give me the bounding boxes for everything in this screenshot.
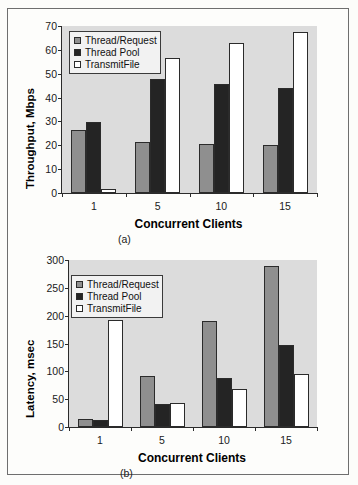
x-axis-tick-mark — [317, 427, 318, 431]
x-axis-tick-mark — [193, 427, 194, 431]
x-axis-tick-label: 5 — [155, 200, 161, 212]
chart-a-x-axis-label: Concurrent Clients — [61, 217, 316, 231]
y-axis-tick-mark — [65, 316, 69, 317]
y-axis-tick-mark — [65, 399, 69, 400]
bar — [214, 84, 229, 193]
legend-swatch-thread-request-icon — [76, 281, 83, 288]
legend-label: Thread Pool — [87, 291, 141, 302]
y-axis-tick-mark — [65, 260, 69, 261]
legend-item: TransmitFile — [76, 303, 157, 314]
bar — [229, 43, 244, 193]
bar — [263, 145, 278, 193]
x-axis-tick-label: 1 — [91, 200, 97, 212]
legend-label: Thread Pool — [85, 47, 139, 58]
bar — [101, 189, 116, 193]
legend-item: Thread Pool — [76, 291, 157, 302]
figure-frame: Throughput, Mbps 010203040506070151015 C… — [7, 8, 349, 475]
bar — [264, 266, 279, 427]
x-axis-tick-label: 10 — [216, 200, 228, 212]
x-axis-tick-mark — [317, 193, 318, 197]
x-axis-tick-label: 1 — [97, 434, 103, 446]
legend-item: Thread Pool — [74, 47, 155, 58]
bar — [278, 88, 293, 193]
bar — [150, 79, 165, 194]
x-axis-tick-mark — [255, 427, 256, 431]
x-axis-tick-mark — [253, 193, 254, 197]
chart-a-caption: (a) — [118, 233, 131, 245]
bar — [217, 378, 232, 427]
y-axis-tick-mark — [58, 74, 62, 75]
y-axis-tick-mark — [58, 121, 62, 122]
bar — [279, 345, 294, 427]
chart-b-legend: Thread/Request Thread Pool TransmitFile — [71, 275, 163, 318]
bar — [108, 320, 123, 427]
chart-b-caption: (b) — [120, 467, 133, 479]
bar — [140, 376, 155, 427]
chart-b-x-axis-label: Concurrent Clients — [68, 451, 316, 465]
x-axis-tick-mark — [131, 427, 132, 431]
bar — [93, 420, 108, 427]
bar — [294, 374, 309, 427]
y-axis-tick-mark — [58, 50, 62, 51]
bar — [232, 389, 247, 427]
chart-latency: Latency, msec 050100150200250300151015 C… — [8, 246, 343, 474]
legend-swatch-thread-request-icon — [74, 37, 81, 44]
legend-item: TransmitFile — [74, 59, 155, 70]
x-axis-tick-mark — [69, 427, 70, 431]
x-axis-tick-mark — [62, 193, 63, 197]
bar — [71, 130, 86, 193]
legend-label: Thread/Request — [85, 35, 157, 46]
y-axis-tick-mark — [65, 344, 69, 345]
x-axis-tick-label: 10 — [218, 434, 230, 446]
x-axis-tick-mark — [126, 193, 127, 197]
legend-swatch-transmitfile-icon — [74, 61, 81, 68]
legend-item: Thread/Request — [76, 279, 157, 290]
chart-throughput: Throughput, Mbps 010203040506070151015 C… — [8, 9, 343, 237]
bar — [199, 144, 214, 193]
y-axis-tick-mark — [65, 371, 69, 372]
chart-a-legend: Thread/Request Thread Pool TransmitFile — [69, 31, 161, 74]
figure-container: Throughput, Mbps 010203040506070151015 C… — [0, 0, 358, 485]
x-axis-tick-label: 15 — [279, 200, 291, 212]
x-axis-tick-mark — [190, 193, 191, 197]
x-axis-tick-label: 5 — [159, 434, 165, 446]
legend-label: Thread/Request — [87, 279, 159, 290]
bar — [86, 122, 101, 193]
bar — [293, 32, 308, 193]
y-axis-tick-mark — [58, 26, 62, 27]
bar — [135, 142, 150, 193]
bar — [78, 419, 93, 427]
x-axis-tick-label: 15 — [280, 434, 292, 446]
y-axis-tick-mark — [58, 98, 62, 99]
chart-b-y-axis-label: Latency, msec — [24, 340, 36, 418]
legend-label: TransmitFile — [87, 303, 142, 314]
bar — [170, 403, 185, 427]
bar — [165, 58, 180, 193]
legend-item: Thread/Request — [74, 35, 155, 46]
legend-label: TransmitFile — [85, 59, 140, 70]
y-axis-tick-mark — [58, 169, 62, 170]
legend-swatch-transmitfile-icon — [76, 305, 83, 312]
bar — [202, 321, 217, 427]
y-axis-tick-mark — [58, 145, 62, 146]
legend-swatch-thread-pool-icon — [76, 293, 83, 300]
chart-a-y-axis-label: Throughput, Mbps — [24, 88, 36, 189]
y-axis-tick-mark — [65, 288, 69, 289]
legend-swatch-thread-pool-icon — [74, 49, 81, 56]
bar — [155, 404, 170, 427]
